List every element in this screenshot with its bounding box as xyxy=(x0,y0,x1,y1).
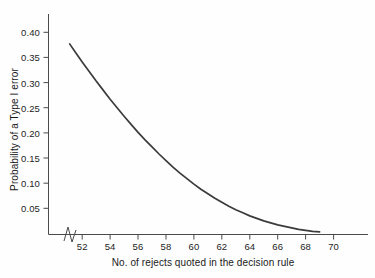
x-tick-label-66: 66 xyxy=(272,241,283,252)
x-tick-label-58: 58 xyxy=(161,241,172,252)
x-tick-label-52: 52 xyxy=(77,241,88,252)
axis-break-marker xyxy=(64,227,76,242)
x-tick-label-70: 70 xyxy=(328,241,339,252)
x-tick-label-54: 54 xyxy=(105,241,116,252)
plot-area xyxy=(0,0,375,278)
x-tick-label-64: 64 xyxy=(244,241,255,252)
chart-figure: 0.40 0.35 0.30 0.25 0.20 0.15 0.10 0.05 … xyxy=(0,0,375,278)
x-tick-label-60: 60 xyxy=(189,241,200,252)
x-tick-label-62: 62 xyxy=(216,241,227,252)
y-axis-ticks xyxy=(44,32,49,208)
x-axis-ticks xyxy=(82,235,333,240)
x-axis-title: No. of rejects quoted in the decision ru… xyxy=(48,257,358,268)
x-tick-label-56: 56 xyxy=(133,241,144,252)
type-i-error-curve xyxy=(70,44,320,232)
y-axis-title: Probability of a Type I error xyxy=(9,30,20,230)
x-tick-label-68: 68 xyxy=(300,241,311,252)
